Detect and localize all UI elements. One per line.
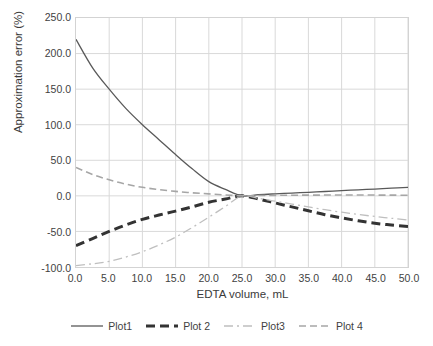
y-tick-label: 250.0: [25, 11, 71, 23]
y-tick-label: 0.0: [25, 190, 71, 202]
y-tick-label: 100.0: [25, 119, 71, 131]
gridlines: [76, 18, 408, 267]
x-axis-tick-labels: 0.05.010.015.020.025.030.035.040.045.050…: [75, 272, 409, 288]
legend-item[interactable]: Plot 2: [145, 320, 210, 332]
legend-label: Plot3: [261, 320, 285, 332]
legend-swatch-icon: [145, 320, 179, 332]
chart-container: Approximation error (%) 250.0200.0150.01…: [0, 0, 433, 346]
y-axis-tick-labels: 250.0200.0150.0100.050.00.0-50.0-100.0: [22, 17, 71, 268]
y-tick-label: -50.0: [25, 226, 71, 238]
legend-item[interactable]: Plot3: [223, 320, 285, 332]
y-tick-label: 200.0: [25, 47, 71, 59]
legend-item[interactable]: Plot 4: [298, 320, 363, 332]
legend-label: Plot 4: [336, 320, 363, 332]
y-tick-label: 150.0: [25, 83, 71, 95]
legend-swatch-icon: [298, 320, 332, 332]
legend-item[interactable]: Plot1: [70, 320, 132, 332]
chart-legend: Plot1Plot 2Plot3Plot 4: [0, 316, 433, 336]
plot-area: [75, 17, 409, 268]
plot-svg: [76, 18, 408, 267]
legend-label: Plot 2: [183, 320, 210, 332]
x-axis-title: EDTA volume, mL: [75, 288, 410, 300]
legend-swatch-icon: [70, 320, 104, 332]
legend-swatch-icon: [223, 320, 257, 332]
x-tick-label: 50.0: [389, 272, 429, 284]
y-tick-label: 50.0: [25, 154, 71, 166]
legend-label: Plot1: [108, 320, 132, 332]
